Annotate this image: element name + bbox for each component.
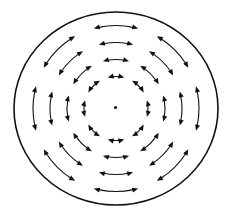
arrowhead-icon [132,25,138,30]
double-arrow-ring-4-outer [94,25,138,30]
arrowhead-icon [69,36,75,41]
arrow-shaft [161,153,186,178]
arrowhead-icon [118,139,124,144]
arrowhead-icon [179,119,184,125]
double-arrow-ring-1-inner [88,125,100,137]
double-arrow-ring-4-outer [195,86,200,130]
arrowhead-icon [123,155,129,160]
double-arrow-ring-2 [140,133,159,152]
arrowhead-icon [140,146,146,151]
arrowhead-icon [32,124,37,130]
arrowhead-icon [154,133,159,139]
arrowhead-icon [85,66,91,71]
arrowhead-icon [77,160,83,165]
arrowhead-icon [149,160,155,165]
arrowhead-icon [81,110,86,116]
arrowhead-icon [168,69,173,75]
arrow-shaft [161,39,186,64]
arrow-shaft [98,26,133,28]
double-arrow-ring-1-inner [132,81,144,93]
double-arrow-ring-2 [73,133,92,152]
arrowhead-icon [146,110,151,116]
arrowhead-icon [65,95,70,101]
arrow-shaft [104,173,129,174]
arrow-shaft [153,54,171,72]
double-arrow-ring-3 [99,171,133,176]
arrowhead-icon [59,142,64,148]
arrowhead-icon [123,57,129,62]
arrow-shaft [197,91,199,126]
arrow-shaft [46,153,71,178]
arrow-shaft [104,43,129,44]
arrow-shaft [67,100,68,117]
arrowhead-icon [132,188,138,193]
double-arrow-ring-2 [65,95,70,121]
arrowhead-icon [44,61,49,67]
arrowhead-icon [179,91,184,97]
arrowhead-icon [32,86,37,92]
double-arrow-ring-1-inner [88,81,100,93]
arrowhead-icon [73,133,78,139]
double-arrow-ring-4-outer [44,36,75,67]
double-arrow-ring-4-outer [94,188,138,193]
arrowhead-icon [183,149,188,155]
double-arrow-ring-3 [149,51,173,75]
arrowhead-icon [103,57,109,62]
arrow-shaft [33,91,35,126]
arrow-shaft [46,39,71,64]
arrowhead-icon [69,176,75,181]
arrowhead-icon [48,119,53,125]
arrow-shaft [153,146,171,164]
arrowhead-icon [157,176,163,181]
arrowhead-icon [99,171,105,176]
arrowhead-icon [195,86,200,92]
arrowhead-icon [85,146,91,151]
arrow-shaft [61,54,79,72]
arrow-shaft [50,96,51,121]
arrowhead-icon [140,66,146,71]
double-arrow-ring-1-inner [81,100,86,117]
double-arrow-ring-2 [103,57,129,62]
arrow-shaft [164,100,165,117]
arrowhead-icon [108,139,114,144]
arrowhead-icon [183,61,188,67]
double-arrow-ring-4-outer [44,149,75,180]
arrowhead-icon [146,100,151,106]
double-arrow-ring-3 [179,91,184,125]
double-arrow-ring-1-inner [146,100,151,117]
double-arrow-ring-2 [162,95,167,121]
arrowhead-icon [195,124,200,130]
double-arrow-ring-3 [149,142,173,166]
double-arrow-ring-1-inner [108,139,125,144]
double-arrow-ring-3 [59,142,83,166]
arrowhead-icon [48,91,53,97]
double-arrow-ring-4-outer [157,36,188,67]
arrowhead-icon [154,78,159,84]
arrowhead-icon [118,74,124,79]
double-arrow-ring-3 [59,51,83,75]
arrowhead-icon [94,188,100,193]
arrowhead-icon [149,51,155,56]
arrow-shaft [144,68,156,80]
double-arrow-ring-4-outer [157,149,188,180]
arrowhead-icon [73,78,78,84]
arrowhead-icon [168,142,173,148]
double-arrow-ring-4-outer [32,86,37,130]
arrowhead-icon [99,41,105,46]
arrowhead-icon [108,74,114,79]
arrowhead-icon [77,51,83,56]
arrow-shaft [144,137,156,149]
arrowhead-icon [127,171,133,176]
arrow-shaft [98,190,133,192]
arrowhead-icon [44,149,49,155]
arrow-shaft [76,68,88,80]
arrowhead-icon [94,25,100,30]
double-arrow-ring-2 [73,66,92,85]
diagram-canvas [0,0,227,215]
arrow-shaft [108,157,125,158]
arrow-shaft [108,59,125,60]
arrowhead-icon [103,155,109,160]
tangential-arrows-diagram [0,0,227,215]
arrowhead-icon [162,115,167,121]
arrowhead-icon [81,100,86,106]
